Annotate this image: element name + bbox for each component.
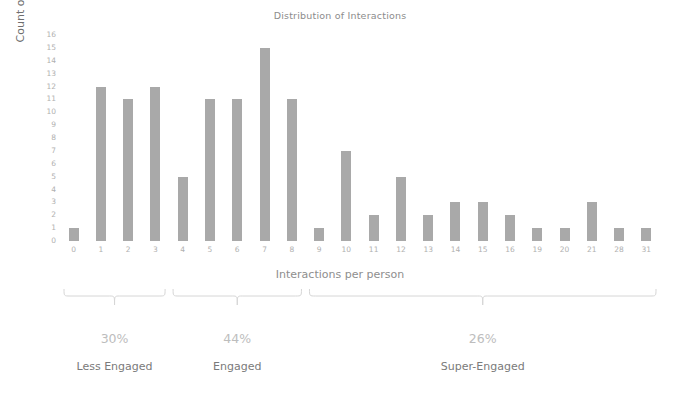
y-axis-tick: 13: [38, 70, 56, 78]
bracket-path: [309, 289, 656, 305]
chart-container: Distribution of Interactions Count of Pe…: [0, 0, 680, 397]
bar-slot: [305, 35, 332, 241]
bar-slot: [387, 35, 414, 241]
x-axis-tick: 21: [578, 245, 605, 254]
y-axis-title: Count of People: [14, 0, 32, 74]
x-axis-tick: 12: [387, 245, 414, 254]
x-axis-title: Interactions per person: [0, 268, 680, 281]
bar[interactable]: [369, 215, 379, 241]
y-axis-tick: 6: [38, 160, 56, 168]
group-label: Super-Engaged: [403, 360, 563, 373]
y-axis-tick: 4: [38, 186, 56, 194]
bar-slot: [333, 35, 360, 241]
y-axis-tick: 5: [38, 173, 56, 181]
group-percent: 30%: [55, 331, 175, 346]
bar-slot: [605, 35, 632, 241]
bracket-path: [64, 289, 165, 305]
x-axis-tick: 3: [142, 245, 169, 254]
y-axis-tick: 7: [38, 147, 56, 155]
bar[interactable]: [450, 202, 460, 241]
y-axis-tick: 1: [38, 224, 56, 232]
bar[interactable]: [314, 228, 324, 241]
bar[interactable]: [341, 151, 351, 241]
y-axis-tick: 16: [38, 31, 56, 39]
bar[interactable]: [560, 228, 570, 241]
y-axis-tick: 0: [38, 237, 56, 245]
x-axis-tick: 15: [469, 245, 496, 254]
bar-slot: [360, 35, 387, 241]
x-axis-tick: 1: [87, 245, 114, 254]
bar[interactable]: [205, 99, 215, 241]
x-axis-tick: 19: [524, 245, 551, 254]
x-axis-tick: 20: [551, 245, 578, 254]
bar[interactable]: [641, 228, 651, 241]
bar-slot: [169, 35, 196, 241]
bar-slot: [87, 35, 114, 241]
group-percent: 26%: [423, 331, 543, 346]
bar[interactable]: [532, 228, 542, 241]
x-axis-tick: 6: [224, 245, 251, 254]
plot-area: [60, 35, 660, 241]
bar-slot: [633, 35, 660, 241]
x-axis-tick: 13: [415, 245, 442, 254]
bar[interactable]: [123, 99, 133, 241]
y-axis-tick: 12: [38, 83, 56, 91]
bar-slot: [578, 35, 605, 241]
x-axis-tick: 5: [196, 245, 223, 254]
bar-slot: [442, 35, 469, 241]
bar-slot: [251, 35, 278, 241]
x-axis-tick: 7: [251, 245, 278, 254]
x-axis-tick: 11: [360, 245, 387, 254]
x-axis-tick: 8: [278, 245, 305, 254]
group-label: Engaged: [157, 360, 317, 373]
x-axis-tick: 14: [442, 245, 469, 254]
bar[interactable]: [150, 87, 160, 242]
y-axis-tick: 15: [38, 44, 56, 52]
x-axis-tick: 9: [305, 245, 332, 254]
bar[interactable]: [260, 48, 270, 241]
x-axis-tick: 10: [333, 245, 360, 254]
x-axis-tick: 28: [605, 245, 632, 254]
bar-slot: [415, 35, 442, 241]
y-axis-tick: 2: [38, 211, 56, 219]
y-axis-tick: 8: [38, 134, 56, 142]
bar[interactable]: [478, 202, 488, 241]
bar-slot: [278, 35, 305, 241]
bar[interactable]: [287, 99, 297, 241]
bar[interactable]: [69, 228, 79, 241]
bar-slot: [551, 35, 578, 241]
y-axis-tick: 11: [38, 95, 56, 103]
bar[interactable]: [614, 228, 624, 241]
bar-slot: [142, 35, 169, 241]
bar[interactable]: [505, 215, 515, 241]
bar[interactable]: [423, 215, 433, 241]
bar-slot: [496, 35, 523, 241]
chart-title: Distribution of Interactions: [0, 10, 680, 21]
bracket-path: [173, 289, 301, 305]
y-axis-tick: 10: [38, 108, 56, 116]
group-percent: 44%: [177, 331, 297, 346]
bar-slot: [524, 35, 551, 241]
x-axis-tick: 16: [496, 245, 523, 254]
x-axis-tick: 2: [115, 245, 142, 254]
bar-slot: [469, 35, 496, 241]
x-axis-tick: 31: [633, 245, 660, 254]
bar[interactable]: [587, 202, 597, 241]
group-brackets: [0, 288, 680, 318]
x-axis-tick: 4: [169, 245, 196, 254]
bar-slot: [224, 35, 251, 241]
bar-slot: [115, 35, 142, 241]
bar[interactable]: [232, 99, 242, 241]
y-axis-tick: 3: [38, 198, 56, 206]
bar-slot: [196, 35, 223, 241]
bar[interactable]: [96, 87, 106, 242]
y-axis-tick: 14: [38, 57, 56, 65]
bar-slot: [60, 35, 87, 241]
bar[interactable]: [396, 177, 406, 241]
bar[interactable]: [178, 177, 188, 241]
x-axis-tick: 0: [60, 245, 87, 254]
y-axis-tick: 9: [38, 121, 56, 129]
